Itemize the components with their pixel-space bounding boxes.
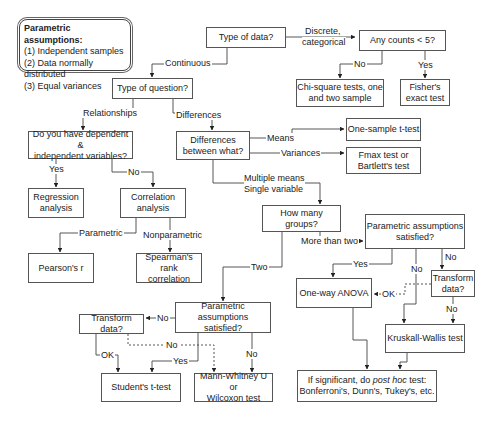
edge-label-two: Two bbox=[250, 262, 269, 272]
node-transform-left: Transform data? bbox=[79, 314, 144, 334]
node-students-t-test: Student's t-test bbox=[101, 373, 181, 402]
node-label: and two sample bbox=[308, 93, 371, 104]
legend-item: (3) Equal variances bbox=[24, 81, 126, 93]
edge-label-relationships: Relationships bbox=[82, 108, 138, 118]
node-label: Spearman's rank bbox=[137, 252, 201, 274]
node-label: data? bbox=[442, 284, 465, 295]
edge-label-nonparametric: Nonparametric bbox=[142, 230, 203, 240]
edge-label-ok: OK bbox=[381, 289, 396, 299]
node-label: Pearson's r bbox=[38, 263, 83, 274]
edge-label-yes: Yes bbox=[48, 164, 65, 174]
node-label: between what? bbox=[183, 146, 244, 157]
node-label: Fmax test or bbox=[358, 150, 408, 161]
node-label: Mann-Whitney U or bbox=[195, 371, 272, 393]
node-dependent-independent: Do you have dependent & independent vari… bbox=[28, 131, 133, 159]
node-label: Any counts < 5? bbox=[370, 35, 435, 46]
node-one-sample-t-test: One-sample t-test bbox=[346, 118, 421, 141]
node-type-of-question: Type of question? bbox=[112, 78, 193, 99]
node-correlation: Correlation analysis bbox=[120, 188, 186, 218]
edge-label-no: No bbox=[127, 167, 141, 177]
edge-label-no: No bbox=[444, 252, 458, 262]
node-label: Type of data? bbox=[219, 32, 274, 43]
edge-label-no: No bbox=[445, 304, 459, 314]
node-label: Parametric assumptions bbox=[367, 221, 464, 232]
node-label: Bonferroni's, Dunn's, Tukey's, etc. bbox=[299, 386, 434, 397]
node-label: Regression bbox=[33, 192, 79, 203]
node-label: Wilcoxon test bbox=[207, 393, 261, 404]
node-how-many-groups: How many groups? bbox=[262, 205, 341, 232]
node-differences-between: Differences between what? bbox=[176, 131, 250, 160]
node-label: Bartlett's test bbox=[358, 161, 410, 172]
node-fisher: Fisher's exact test bbox=[400, 79, 450, 106]
node-any-counts: Any counts < 5? bbox=[359, 30, 446, 51]
node-fmax-bartlett: Fmax test or Bartlett's test bbox=[346, 147, 421, 174]
node-label: satisfied? bbox=[396, 232, 434, 243]
node-label: exact test bbox=[406, 93, 445, 104]
edge-label-more-than-two: More than two bbox=[300, 236, 359, 246]
node-label: Fisher's bbox=[409, 82, 440, 93]
node-label: One-sample t-test bbox=[348, 124, 420, 135]
node-label: Do you have dependent & bbox=[29, 129, 132, 151]
node-label: correlation bbox=[148, 274, 190, 285]
edge-label-no: No bbox=[245, 349, 259, 359]
edge-label-ok: OK bbox=[100, 350, 115, 360]
edge-label-continuous: Continuous bbox=[164, 58, 212, 68]
edge-label-means: Means bbox=[266, 133, 295, 143]
legend-title: Parametric assumptions: bbox=[24, 23, 126, 46]
node-one-way-anova: One-way ANOVA bbox=[296, 278, 372, 308]
node-label: analysis bbox=[40, 203, 73, 214]
node-pearson: Pearson's r bbox=[28, 253, 94, 283]
node-param-satisfied-right: Parametric assumptions satisfied? bbox=[365, 214, 465, 249]
edge-label-discrete: Discrete, bbox=[305, 26, 341, 37]
node-regression: Regression analysis bbox=[28, 188, 84, 218]
parametric-assumptions-legend: Parametric assumptions: (1) Independent … bbox=[19, 19, 131, 71]
node-chi-square: Chi-square tests, one and two sample bbox=[296, 79, 384, 107]
node-label: analysis bbox=[137, 203, 170, 214]
edge-label-differences: Differences bbox=[175, 110, 222, 120]
legend-item: (2) Data normally distributed bbox=[24, 58, 126, 81]
node-param-satisfied-left: Parametric assumptions satisfied? bbox=[175, 302, 271, 333]
node-label: Kruskall-Wallis test bbox=[387, 333, 463, 344]
edge-label-parametric: Parametric bbox=[78, 228, 124, 238]
node-label: Correlation bbox=[131, 192, 175, 203]
edge-label-yes: Yes bbox=[172, 356, 189, 366]
node-spearman: Spearman's rank correlation bbox=[136, 253, 202, 283]
edge-label-no: No bbox=[156, 313, 170, 323]
node-label: Type of question? bbox=[117, 83, 188, 94]
node-label: One-way ANOVA bbox=[300, 288, 369, 299]
edge-label-categorical: categorical bbox=[302, 37, 346, 48]
edge-label-yes: Yes bbox=[352, 259, 369, 269]
node-label: If significant, do post hoc test: bbox=[308, 375, 427, 386]
edge-label-no: No bbox=[410, 264, 424, 274]
node-label: independent variables? bbox=[34, 151, 127, 162]
edge-label-multiple-means: Multiple means bbox=[244, 173, 305, 184]
node-post-hoc: If significant, do post hoc test: Bonfer… bbox=[297, 370, 437, 402]
node-type-of-data: Type of data? bbox=[206, 27, 286, 48]
node-label: Student's t-test bbox=[111, 382, 171, 393]
edge-label-single-variable: Single variable bbox=[244, 184, 303, 195]
edge-label-yes: Yes bbox=[417, 60, 434, 70]
edge-label-no-dashed: No bbox=[165, 340, 179, 350]
node-transform-right: Transform data? bbox=[431, 270, 475, 297]
node-label: Parametric assumptions bbox=[176, 301, 270, 323]
node-label: Transform data? bbox=[80, 313, 143, 335]
legend-item: (1) Independent samples bbox=[24, 46, 126, 58]
node-label: Chi-square tests, one bbox=[297, 82, 383, 93]
node-label: satisfied? bbox=[204, 323, 242, 334]
edge-label-variances: Variances bbox=[280, 148, 321, 158]
node-kruskal-wallis: Kruskall-Wallis test bbox=[385, 324, 465, 353]
node-label: How many groups? bbox=[263, 208, 340, 230]
node-label: Transform bbox=[433, 273, 474, 284]
node-mann-whitney: Mann-Whitney U or Wilcoxon test bbox=[194, 373, 273, 402]
node-label: Differences bbox=[190, 135, 235, 146]
edge-label-no: No bbox=[353, 59, 367, 69]
